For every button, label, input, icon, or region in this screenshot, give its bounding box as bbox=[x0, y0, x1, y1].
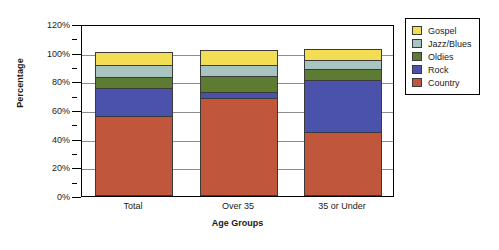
bar-segment-oldies bbox=[95, 77, 173, 88]
y-axis-tick-label: 20% bbox=[28, 164, 70, 173]
legend-item: Oldies bbox=[412, 50, 472, 63]
y-axis-major-tick bbox=[72, 140, 81, 141]
legend-item: Gospel bbox=[412, 24, 472, 37]
plot-area bbox=[81, 25, 394, 197]
y-axis-minor-tick bbox=[72, 97, 77, 98]
y-axis-minor-tick bbox=[72, 183, 77, 184]
y-axis-tick-label: 120% bbox=[28, 21, 70, 30]
x-axis-tick-label: 35 or Under bbox=[291, 200, 393, 212]
bar-segment-country bbox=[200, 98, 278, 196]
x-axis-tick-label: Total bbox=[82, 200, 184, 212]
legend-swatch-country bbox=[412, 78, 422, 87]
y-axis-minor-tick bbox=[72, 39, 77, 40]
bar-segment-gospel bbox=[95, 52, 173, 66]
y-axis-title: Percentage bbox=[15, 33, 25, 133]
y-axis-tick-label: 0% bbox=[28, 193, 70, 202]
bar-segment-gospel bbox=[200, 50, 278, 65]
chart-legend: GospelJazz/BluesOldiesRockCountry bbox=[405, 18, 480, 95]
bar-segment-country bbox=[95, 116, 173, 196]
y-axis-major-tick bbox=[72, 25, 81, 26]
bar-segment-jazz-blues bbox=[95, 65, 173, 79]
bar-segment-jazz-blues bbox=[304, 60, 382, 70]
bar-segment-gospel bbox=[304, 49, 382, 61]
y-axis-tick-label: 80% bbox=[28, 78, 70, 87]
legend-item: Jazz/Blues bbox=[412, 37, 472, 50]
y-axis-major-tick bbox=[72, 82, 81, 83]
bar-over-35 bbox=[200, 51, 278, 196]
legend-swatch-jazz-blues bbox=[412, 39, 422, 48]
legend-item: Rock bbox=[412, 63, 472, 76]
legend-label: Gospel bbox=[428, 26, 457, 36]
bar-35-or-under bbox=[304, 50, 382, 196]
legend-label: Jazz/Blues bbox=[428, 39, 472, 49]
y-axis-major-tick bbox=[72, 197, 81, 198]
bar-segment-rock bbox=[304, 80, 382, 133]
legend-label: Country bbox=[428, 78, 460, 88]
legend-label: Oldies bbox=[428, 52, 454, 62]
x-axis-tick-labels: TotalOver 3535 or Under bbox=[81, 200, 394, 214]
y-axis-minor-tick bbox=[72, 125, 77, 126]
legend-item: Country bbox=[412, 76, 472, 89]
legend-label: Rock bbox=[428, 65, 449, 75]
legend-swatch-oldies bbox=[412, 52, 422, 61]
y-axis-tick-label: 40% bbox=[28, 136, 70, 145]
legend-swatch-gospel bbox=[412, 26, 422, 35]
y-axis-minor-tick bbox=[72, 68, 77, 69]
legend-swatch-rock bbox=[412, 65, 422, 74]
y-axis-tick-labels: 0%20%40%60%80%100%120% bbox=[28, 20, 70, 197]
bar-segment-rock bbox=[200, 92, 278, 99]
y-axis-major-tick bbox=[72, 111, 81, 112]
bar-segment-oldies bbox=[304, 69, 382, 81]
x-axis-title: Age Groups bbox=[81, 218, 394, 228]
y-axis-major-tick bbox=[72, 54, 81, 55]
bar-segment-rock bbox=[95, 88, 173, 118]
y-axis-major-tick bbox=[72, 168, 81, 169]
bar-segment-country bbox=[304, 132, 382, 196]
y-axis-tick-label: 60% bbox=[28, 107, 70, 116]
bar-segment-oldies bbox=[200, 76, 278, 93]
stacked-bar-chart: Percentage 0%20%40%60%80%100%120% TotalO… bbox=[0, 0, 499, 250]
y-axis-tick-marks bbox=[72, 20, 81, 197]
bar-total bbox=[95, 53, 173, 196]
y-axis-tick-label: 100% bbox=[28, 50, 70, 59]
x-axis-tick-label: Over 35 bbox=[187, 200, 289, 212]
y-axis-minor-tick bbox=[72, 154, 77, 155]
bar-segment-jazz-blues bbox=[200, 65, 278, 77]
